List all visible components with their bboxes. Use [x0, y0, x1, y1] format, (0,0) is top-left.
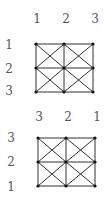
- vertex-dot: [91, 66, 94, 69]
- vertex-dot: [62, 42, 65, 45]
- vertex-dot: [93, 184, 96, 187]
- vertex-dot: [36, 160, 39, 163]
- vertex-dot: [36, 136, 39, 139]
- vertex-dot: [91, 42, 94, 45]
- vertex-dot: [64, 136, 67, 139]
- vertex-dot: [62, 90, 65, 93]
- lattice-graph: [0, 0, 106, 200]
- vertex-dot: [34, 42, 37, 45]
- vertex-dot: [91, 90, 94, 93]
- vertex-dot: [64, 184, 67, 187]
- vertex-dot: [62, 66, 65, 69]
- vertex-dot: [93, 136, 96, 139]
- vertex-dot: [36, 184, 39, 187]
- vertex-dot: [64, 160, 67, 163]
- vertex-dot: [34, 90, 37, 93]
- vertex-dot: [93, 160, 96, 163]
- vertex-dot: [34, 66, 37, 69]
